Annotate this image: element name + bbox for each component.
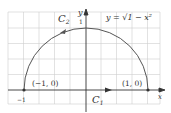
- equation-label: y = √1 − x²: [105, 13, 152, 22]
- c1-direction-arrow: [105, 88, 112, 93]
- x-axis-arrow: [159, 88, 165, 92]
- point-left: [22, 88, 25, 91]
- point-right-label: (1, 0): [122, 79, 142, 88]
- y-axis-label: y: [77, 8, 83, 17]
- point-left-label: (−1, 0): [32, 79, 59, 88]
- segment-label-c1: C1: [92, 94, 103, 106]
- y-axis-arrow: [84, 9, 88, 15]
- diagram: C2 y 1 y = √1 − x² (−1, 0) (1, 0) −1 C1 …: [0, 0, 171, 113]
- curve-label-c2: C2: [58, 13, 70, 25]
- y-tick-label: 1: [79, 18, 83, 25]
- point-right: [146, 88, 149, 91]
- x-axis-label: x: [158, 93, 162, 101]
- x-tick-left-label: −1: [17, 96, 26, 103]
